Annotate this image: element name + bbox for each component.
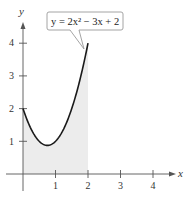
x-tick-label: 4 [151, 180, 156, 191]
x-tick-label: 2 [86, 180, 91, 191]
chart: x y 1 2 3 4 1 2 3 4 y = 2x² − 3x + 2 [0, 0, 187, 198]
x-axis-arrow-icon [169, 172, 176, 177]
y-tick-label: 2 [9, 103, 14, 114]
x-tick-label: 3 [118, 180, 123, 191]
x-tick-label: 1 [53, 180, 58, 191]
shaded-region [23, 43, 88, 174]
equation-callout: y = 2x² − 3x + 2 [47, 12, 123, 49]
y-tick-label: 3 [9, 70, 14, 81]
equation-label: y = 2x² − 3x + 2 [51, 16, 119, 27]
y-axis-arrow-icon [21, 22, 26, 29]
x-axis-label: x [177, 167, 183, 179]
y-axis-label: y [18, 5, 24, 17]
y-tick-label: 4 [9, 37, 14, 48]
y-tick-label: 1 [9, 136, 14, 147]
